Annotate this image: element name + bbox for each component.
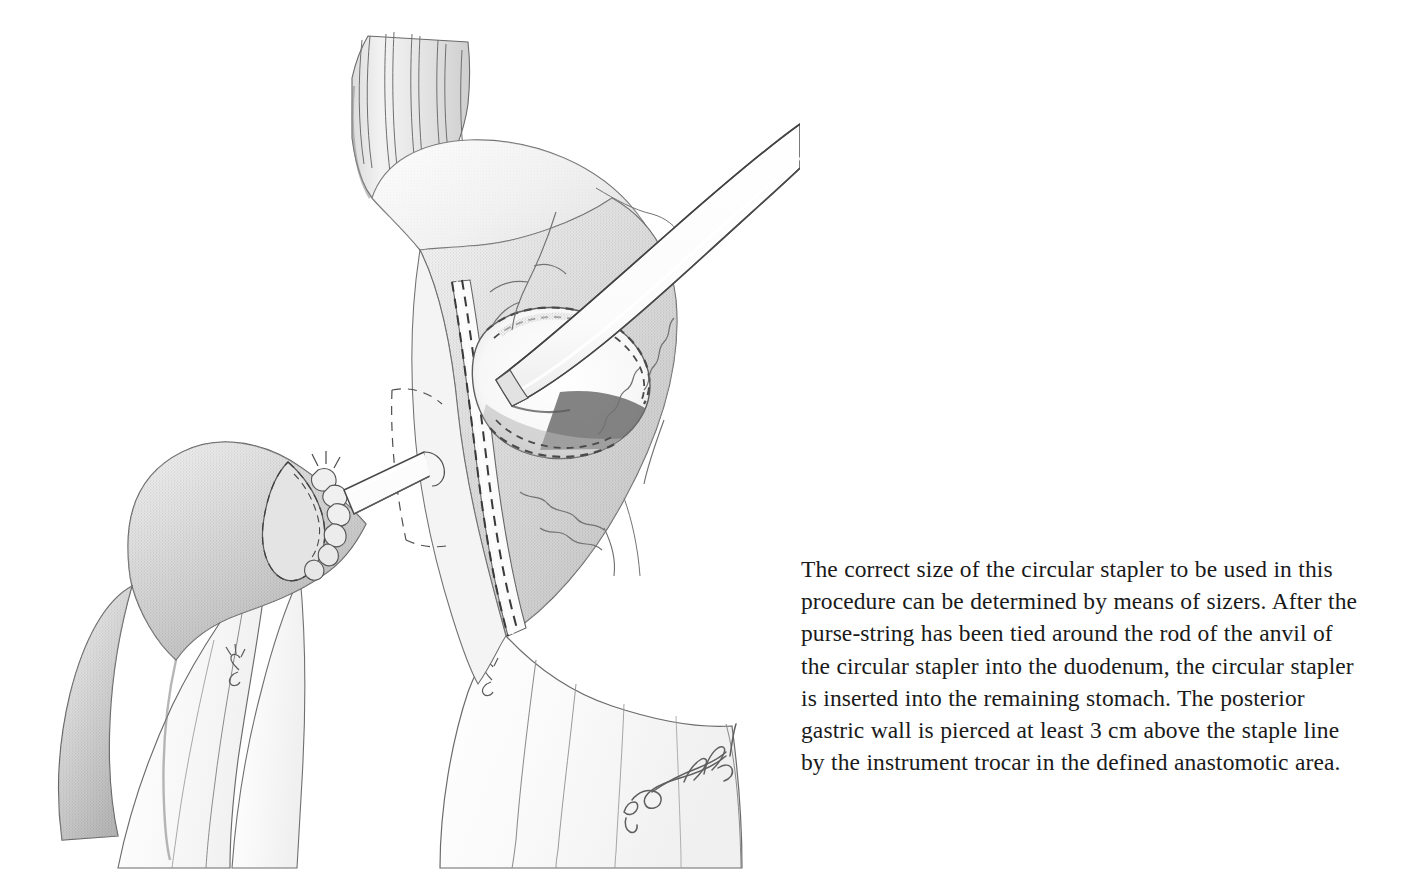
vessel-greater-curv-edge <box>624 498 640 576</box>
duodenum-descending-texture <box>59 586 132 840</box>
caption-block: The correct size of the circular stapler… <box>801 553 1363 778</box>
caption-text: The correct size of the circular stapler… <box>801 553 1363 778</box>
stomach-group <box>372 140 677 684</box>
illustration-layers <box>59 32 800 868</box>
vessel-lower-branch <box>604 528 615 576</box>
figure-page: The correct size of the circular stapler… <box>0 0 1401 883</box>
surgical-illustration <box>0 0 800 870</box>
